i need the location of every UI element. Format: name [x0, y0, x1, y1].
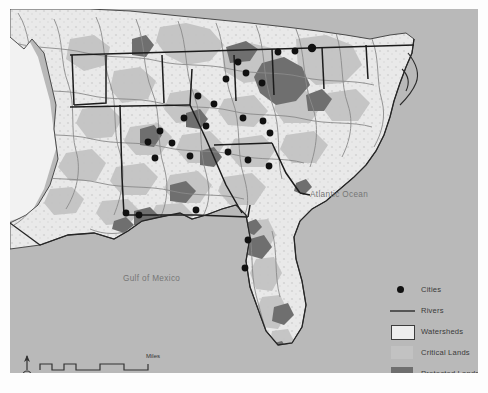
city-dot[interactable] [267, 130, 274, 137]
protected-lands-symbol [390, 367, 414, 373]
legend-item-rivers[interactable]: Rivers [390, 304, 478, 325]
city-dot[interactable] [308, 44, 316, 52]
scale-units-label: Miles [146, 353, 160, 359]
city-dot[interactable] [225, 149, 232, 156]
city-dot[interactable] [169, 140, 176, 147]
city-dot[interactable] [260, 118, 267, 125]
city-dot[interactable] [136, 212, 143, 219]
city-dot[interactable] [181, 115, 188, 122]
city-dot[interactable] [211, 101, 218, 108]
city-dot[interactable] [245, 157, 252, 164]
scale-bar-graphic [38, 361, 170, 373]
city-dot[interactable] [123, 210, 130, 217]
city-dot[interactable] [235, 59, 242, 66]
rivers-symbol [390, 304, 414, 318]
city-dot[interactable] [145, 139, 152, 146]
legend-label: Protected Lands [421, 369, 478, 373]
city-dot[interactable] [187, 153, 194, 160]
city-dot[interactable] [203, 123, 210, 130]
city-dot[interactable] [292, 48, 299, 55]
legend-label: Watersheds [421, 327, 463, 336]
legend-item-cities[interactable]: Cities [390, 283, 478, 304]
city-dot[interactable] [275, 49, 282, 56]
city-dot[interactable] [245, 237, 252, 244]
legend-label: Cities [421, 285, 441, 294]
city-dot[interactable] [266, 163, 273, 170]
map-canvas[interactable]: Atlantic Ocean Gulf of Mexico Cities Riv… [10, 9, 478, 373]
north-arrow [19, 354, 37, 373]
legend-item-watersheds[interactable]: Watersheds [390, 325, 478, 346]
city-dot[interactable] [242, 265, 249, 272]
legend-label: Critical Lands [421, 348, 470, 357]
scale-bar: Miles 0 25 50 100 150 200 [38, 361, 170, 373]
critical-lands-symbol [390, 346, 414, 360]
city-dot[interactable] [152, 155, 159, 162]
watersheds-symbol [390, 325, 414, 339]
city-dot[interactable] [195, 93, 202, 100]
map-legend: Cities Rivers Watersheds Critical Lands … [390, 283, 478, 373]
city-dot[interactable] [240, 115, 247, 122]
city-dot[interactable] [243, 70, 250, 77]
city-dot[interactable] [223, 76, 230, 83]
city-dot[interactable] [193, 207, 200, 214]
city-dot[interactable] [157, 128, 164, 135]
cities-symbol [390, 283, 414, 297]
legend-item-critical-lands[interactable]: Critical Lands [390, 346, 478, 367]
legend-label: Rivers [421, 306, 444, 315]
legend-item-protected-lands[interactable]: Protected Lands [390, 367, 478, 373]
map-page: Atlantic Ocean Gulf of Mexico Cities Riv… [0, 0, 488, 393]
city-dot[interactable] [259, 80, 266, 87]
